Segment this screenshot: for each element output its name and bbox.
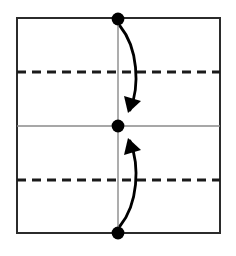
origami-figure <box>0 0 236 256</box>
center-dot <box>112 120 125 133</box>
origami-diagram-canvas <box>0 0 236 256</box>
bottom-edge-midpoint-dot <box>112 227 125 240</box>
top-edge-midpoint-dot <box>112 13 125 26</box>
